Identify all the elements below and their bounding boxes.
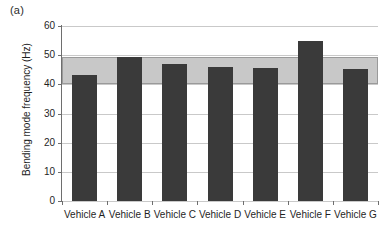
x-tick-mark (152, 201, 153, 205)
bar (162, 64, 187, 201)
bar (72, 75, 97, 201)
gridline (62, 201, 378, 202)
x-axis-label: Vehicle G (334, 209, 377, 221)
y-tick-mark (58, 55, 62, 56)
y-tick-mark (58, 26, 62, 27)
y-tick-label: 10 (44, 167, 55, 177)
x-axis-label: Vehicle B (109, 209, 151, 221)
x-tick-mark (333, 201, 334, 205)
x-tick-mark (197, 201, 198, 205)
x-tick-mark (288, 201, 289, 205)
y-tick-mark (58, 114, 62, 115)
x-tick-mark (243, 201, 244, 205)
bar (208, 67, 233, 201)
plot-area: 0102030405060 (62, 26, 378, 201)
bar (298, 41, 323, 201)
y-tick-label: 20 (44, 138, 55, 148)
y-tick-label: 50 (44, 50, 55, 60)
gridline (62, 26, 378, 27)
x-axis-label: Vehicle A (64, 209, 105, 221)
y-axis-title: Bending mode frequency (Hz) (21, 30, 32, 190)
x-axis-label: Vehicle C (154, 209, 196, 221)
y-tick-label: 60 (44, 21, 55, 31)
bar (117, 57, 142, 201)
gridline (62, 55, 378, 56)
y-tick-label: 30 (44, 109, 55, 119)
x-tick-mark (107, 201, 108, 205)
panel-letter: (a) (10, 4, 24, 17)
y-tick-label: 40 (44, 79, 55, 89)
y-tick-mark (58, 143, 62, 144)
bar (343, 69, 368, 201)
x-tick-mark (378, 201, 379, 205)
y-tick-mark (58, 84, 62, 85)
y-tick-mark (58, 172, 62, 173)
x-tick-mark (62, 201, 63, 205)
x-axis-label: Vehicle E (244, 209, 286, 221)
y-tick-label: 0 (49, 196, 55, 206)
bar (253, 68, 278, 201)
figure-root: (a) Bending mode frequency (Hz) 01020304… (0, 0, 381, 232)
x-axis-label: Vehicle F (290, 209, 331, 221)
x-axis-label: Vehicle D (199, 209, 241, 221)
